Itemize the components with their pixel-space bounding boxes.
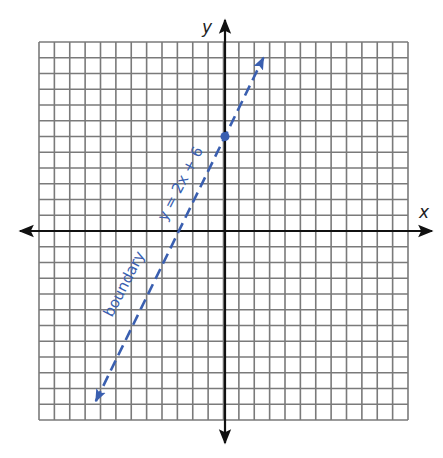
x-axis-label: x: [418, 202, 430, 222]
y-intercept-point: [221, 132, 230, 141]
axes: x y: [20, 17, 432, 443]
coordinate-plane: x y boundary y = 2x + 6: [0, 0, 443, 458]
y-axis-label: y: [201, 17, 213, 37]
